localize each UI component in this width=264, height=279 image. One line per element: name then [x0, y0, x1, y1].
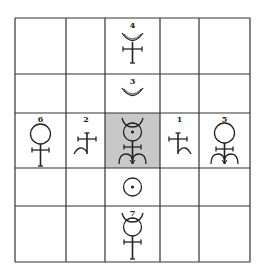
glyph-cross-right-hook-icon: [169, 133, 191, 154]
label-3: 3: [130, 76, 136, 86]
label-5: 5: [222, 114, 228, 124]
label-4: 4: [130, 20, 136, 30]
glyph-circle-over-cross-icon: [31, 124, 51, 166]
label-1: 1: [177, 114, 183, 124]
label-6: 6: [38, 114, 44, 124]
label-7: 7: [130, 208, 136, 218]
glyph-circle-dot-icon: [124, 178, 142, 196]
label-2: 2: [83, 114, 89, 124]
glyph-crescent-icon: [122, 88, 143, 96]
glyph-horned-circle-over-cross-icon: [122, 213, 143, 259]
glyph-crescent-over-cross-icon: [122, 33, 143, 63]
glyph-grid: 4 3 6 2 1 5 7: [0, 0, 264, 279]
glyph-cross-left-hook-icon: [74, 133, 96, 154]
glyph-circle-cross-double-arc-icon: [211, 123, 238, 164]
